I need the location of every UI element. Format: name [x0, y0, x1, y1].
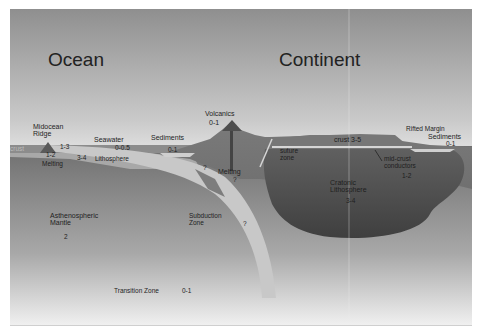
ocean-title: Ocean: [48, 50, 104, 70]
lithosphere-label: Lithosphere: [95, 156, 129, 163]
sediments-left-value: 0-1: [168, 147, 177, 154]
sediments-left-label: Sediments: [151, 134, 184, 141]
midocean-ridge-label: Midocean Ridge: [33, 123, 63, 138]
transition-zone-label: Transition Zone: [114, 288, 159, 295]
midcrust-conductors-label: mid-crust conductors: [384, 156, 416, 170]
ridge-melting-label: Melting: [42, 161, 63, 168]
subduction-zone-label: Subduction Zone: [189, 213, 222, 227]
cratonic-lithosphere-label: Cratonic Lithosphere: [330, 179, 367, 194]
tectonic-cross-section-diagram: Ocean Continent Midocean Ridge crust 1-3…: [10, 9, 472, 326]
continent-title: Continent: [279, 50, 360, 70]
sediments-right-layer: [410, 149, 455, 152]
asthenospheric-mantle-label: Asthenospheric Mantle: [50, 212, 98, 227]
melting-value: ?: [233, 177, 237, 184]
sediments-left-layer: [160, 153, 195, 157]
subduction-value: ?: [243, 221, 247, 228]
volcanics-label: Volcanics: [205, 110, 235, 117]
volcanics-value: 0-1: [209, 119, 219, 126]
ridge-value: 1-3: [60, 144, 69, 151]
seawater-label: Seawater: [94, 136, 124, 143]
lithosphere-value: 3-4: [77, 155, 86, 162]
crust-right-label: crust 3-5: [334, 136, 361, 143]
midcrust-value: 1-2: [402, 173, 411, 180]
asthenosphere-value: 2: [64, 234, 68, 241]
transition-value: 0-1: [182, 288, 191, 295]
seawater-value: 0-0.5: [115, 145, 130, 152]
wedge-value: ?: [203, 165, 207, 172]
crust-left-label: crust: [10, 146, 24, 153]
melting-label: Melting: [218, 168, 241, 175]
volcano: [222, 120, 242, 131]
rifted-margin-label: Rifted Margin: [406, 126, 445, 133]
suture-zone-label: suture zone: [280, 148, 298, 162]
ridge-value-2: 1-2: [46, 152, 55, 159]
sediments-right-value: 0-1: [446, 141, 455, 148]
sediments-right-label: Sediments: [428, 133, 461, 140]
magma-conduit: [230, 131, 233, 171]
cratonic-value: 3-4: [346, 198, 355, 205]
